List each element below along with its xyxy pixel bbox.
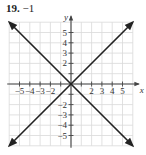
x-tick-label: −5 (15, 86, 25, 96)
x-tick-label: 3 (100, 86, 105, 96)
x-axis-label: x (139, 85, 144, 95)
x-tick-label: 2 (89, 86, 94, 96)
y-tick-label: 2 (63, 58, 68, 68)
x-tick-label: 5 (120, 86, 125, 96)
y-tick-label: 4 (63, 38, 68, 48)
y-tick-label: 5 (63, 28, 68, 38)
x-tick-label: −4 (25, 86, 35, 96)
y-axis-label: y (63, 12, 68, 22)
x-tick-label: −2 (46, 86, 56, 96)
y-tick-label: −4 (57, 120, 67, 130)
coordinate-plane: −5−4−3−223455432−2−3−4−5xy (0, 0, 146, 155)
y-tick-label: −2 (57, 100, 67, 110)
y-tick-label: −3 (57, 110, 67, 120)
x-tick-label: 4 (110, 86, 115, 96)
y-tick-label: 3 (63, 48, 68, 58)
y-tick-label: −5 (57, 131, 67, 141)
x-tick-label: −3 (35, 86, 45, 96)
